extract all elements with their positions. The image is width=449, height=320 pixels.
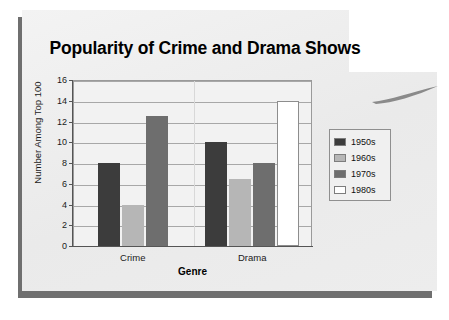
bar-crime-1950s (98, 163, 120, 246)
legend-item-1970s[interactable]: 1970s (334, 166, 390, 182)
x-axis-tick-label-crime: Crime (73, 252, 193, 263)
y-axis-tick-label: 2 (45, 221, 67, 230)
legend-label: 1950s (351, 138, 376, 147)
y-axis-tick-label: 6 (45, 180, 67, 189)
legend-label: 1960s (351, 154, 376, 163)
bar-drama-1950s (205, 142, 227, 246)
y-axis-tick-label: 8 (45, 159, 67, 168)
y-axis-title: Number Among Top 100 (32, 68, 43, 198)
y-axis-tick-label: 10 (45, 138, 67, 147)
y-axis-tick-label: 16 (45, 76, 67, 85)
bar-crime-1960s (122, 205, 144, 247)
legend-swatch-icon-1970s (334, 170, 346, 178)
bars-layer (73, 80, 312, 246)
bar-drama-1970s (253, 163, 275, 246)
chart-title: Popularity of Crime and Drama Shows (40, 38, 370, 59)
legend-item-1950s[interactable]: 1950s (334, 134, 390, 150)
y-axis-tick-label: 14 (45, 97, 67, 106)
bar-drama-1980s (277, 101, 299, 246)
legend-swatch-icon-1960s (334, 154, 346, 162)
legend-label: 1970s (351, 170, 376, 179)
legend-item-1980s[interactable]: 1980s (334, 182, 390, 198)
y-axis-tick-label: 0 (45, 242, 67, 251)
corner-swoosh-decoration (372, 86, 438, 104)
legend-swatch-icon-1950s (334, 138, 346, 146)
x-axis-tick-label-drama: Drama (193, 252, 313, 263)
bar-crime-1970s (146, 116, 168, 246)
x-axis-title: Genre (73, 266, 312, 277)
slide-root: Popularity of Crime and Drama Shows 0246… (0, 0, 449, 320)
legend-swatch-icon-1980s (334, 186, 346, 194)
chart-legend: 1950s1960s1970s1980s (329, 129, 391, 201)
y-axis-tick-label: 4 (45, 201, 67, 210)
y-axis-tick-label: 12 (45, 118, 67, 127)
legend-label: 1980s (351, 186, 376, 195)
bar-drama-1960s (229, 179, 251, 246)
y-axis-tick-mark (69, 246, 73, 247)
x-axis-line (72, 246, 313, 247)
legend-item-1960s[interactable]: 1960s (334, 150, 390, 166)
